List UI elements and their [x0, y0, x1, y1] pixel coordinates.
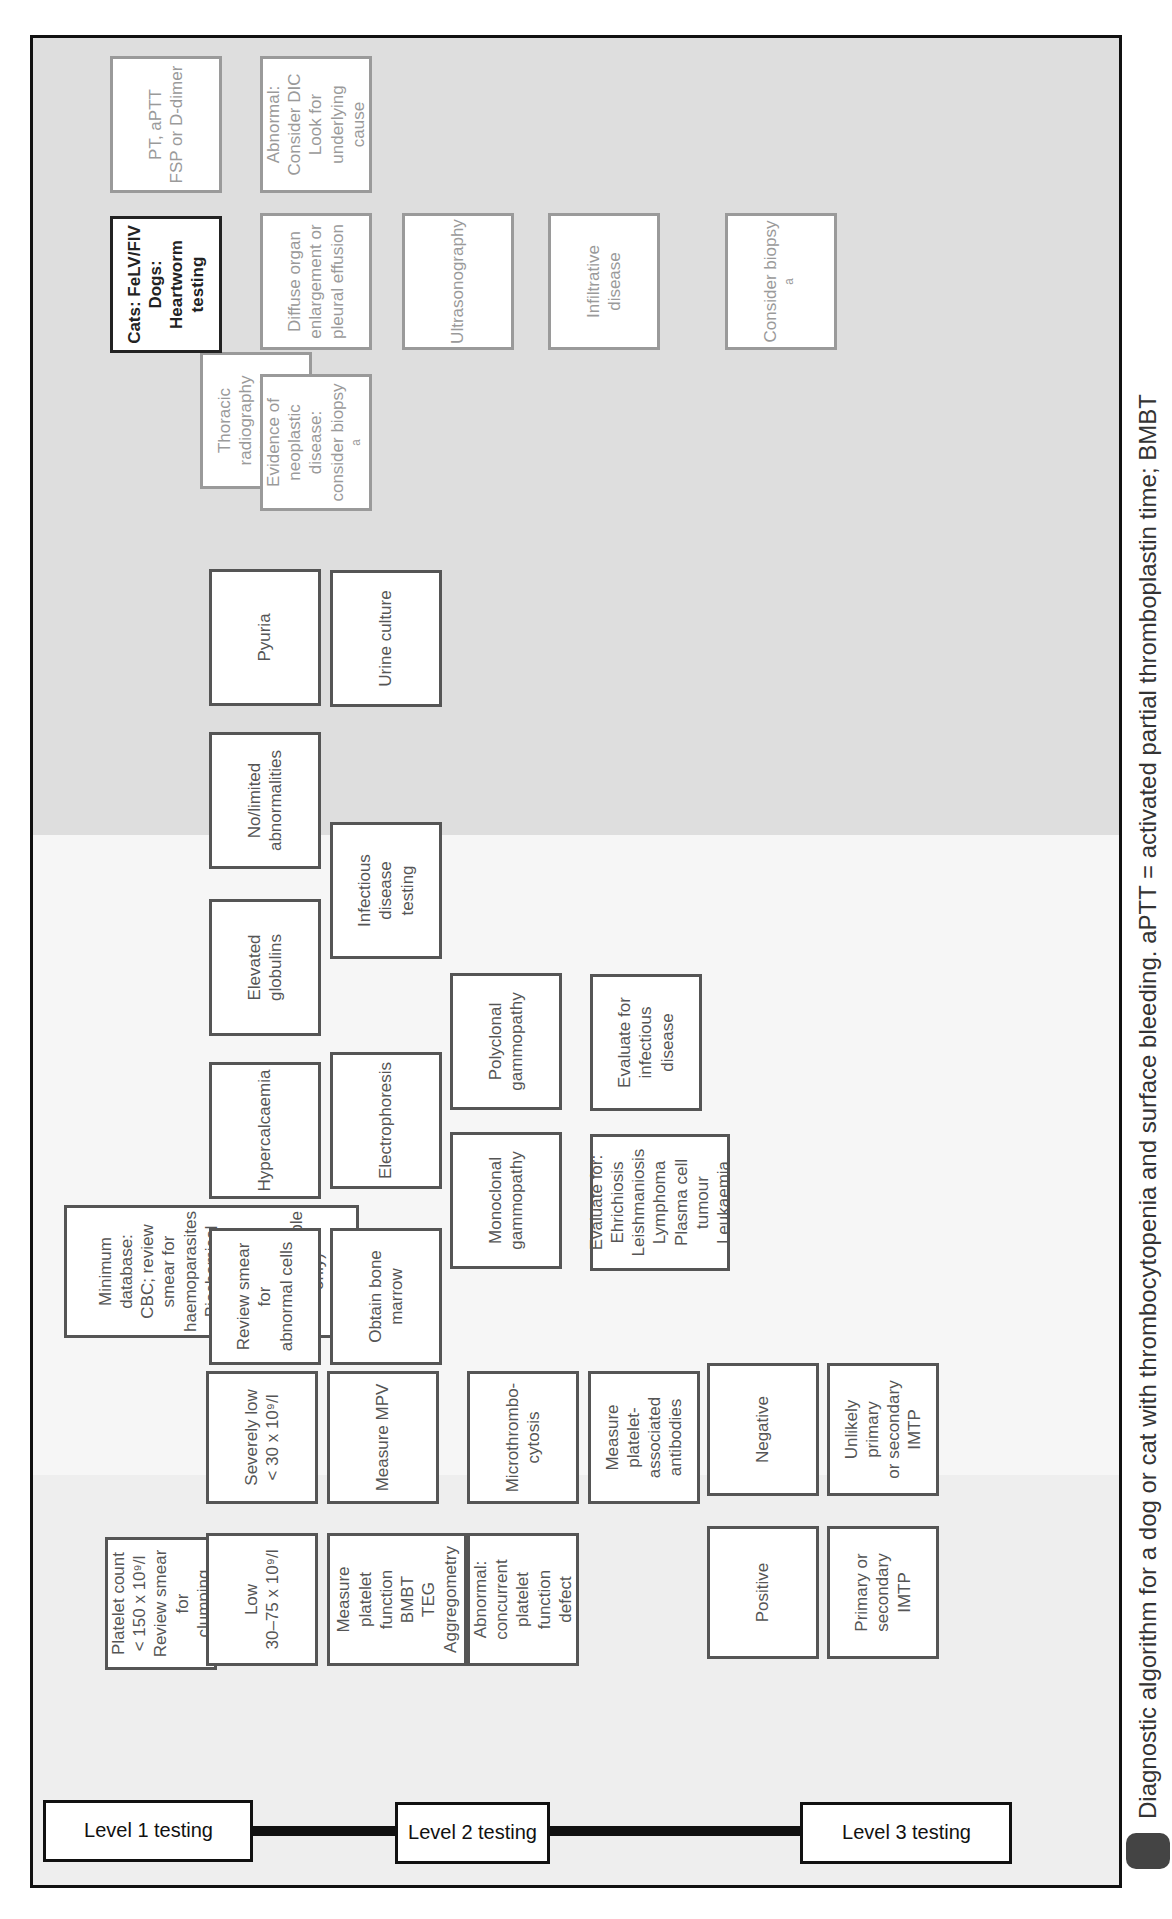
- obtain-bone-marrow-box: Obtain bone marrow: [330, 1228, 442, 1365]
- abnormal-platelet-function-box: Abnormal: concurrent platelet function d…: [467, 1533, 579, 1666]
- diffuse-organ-box: Diffuse organ enlargement or pleural eff…: [260, 213, 372, 350]
- pt-aptt-box: PT, aPTT FSP or D-dimer: [110, 56, 222, 193]
- evaluate-infectious-box: Evaluate for infectious disease: [590, 974, 702, 1111]
- felv-heartworm-box: Cats: FeLV/FIV Dogs: Heartworm testing: [110, 216, 222, 353]
- level-connector-2-3: [550, 1826, 800, 1836]
- review-smear-abnormal-cells-box: Review smear for abnormal cells: [209, 1228, 321, 1365]
- evaluate-for-list-box: Evaluate for: Ehrichiosis Leishmaniosis …: [590, 1134, 730, 1271]
- neoplastic-evidence-box: Evidence of neoplastic disease: consider…: [260, 374, 372, 511]
- infectious-disease-testing-box: Infectious disease testing: [330, 822, 442, 959]
- level-1-label: Level 1 testing: [43, 1800, 253, 1862]
- caption-marker: [1126, 1833, 1170, 1869]
- hypercalcaemia-box: Hypercalcaemia: [209, 1062, 321, 1199]
- microthrombocytosis-box: Microthrombo- cytosis: [467, 1371, 579, 1504]
- measure-antibodies-box: Measure platelet- associated antibodies: [588, 1371, 700, 1504]
- measure-platelet-function-box: Measure platelet function BMBT TEG Aggre…: [327, 1533, 467, 1666]
- electrophoresis-box: Electrophoresis: [330, 1052, 442, 1189]
- consider-biopsy-box: Consider biopsy ᵃ: [725, 213, 837, 350]
- measure-mpv-box: Measure MPV: [327, 1371, 439, 1504]
- unlikely-imtp-box: Unlikely primary or secondary IMTP: [827, 1363, 939, 1496]
- rotated-diagram-canvas: Level 1 testing Level 2 testing Level 3 …: [0, 0, 1172, 1919]
- positive-box: Positive: [707, 1526, 819, 1659]
- primary-secondary-imtp-box: Primary or secondary IMTP: [827, 1526, 939, 1659]
- abnormal-dic-box: Abnormal: Consider DIC Look for underlyi…: [260, 56, 372, 193]
- urine-culture-box: Urine culture: [330, 570, 442, 707]
- severely-low-box: Severely low < 30 x 10⁹/l: [206, 1371, 318, 1504]
- no-limited-abnormalities-box: No/limited abnormalities: [209, 732, 321, 869]
- level-connector-1-2: [253, 1826, 395, 1836]
- polyclonal-gammopathy-box: Polyclonal gammopathy: [450, 973, 562, 1110]
- level-2-label: Level 2 testing: [395, 1802, 550, 1864]
- elevated-globulins-box: Elevated globulins: [209, 899, 321, 1036]
- pyuria-box: Pyuria: [209, 569, 321, 706]
- figure-caption: Diagnostic algorithm for a dog or cat wi…: [1126, 394, 1170, 1869]
- infiltrative-disease-box: Infiltrative disease: [548, 213, 660, 350]
- negative-box: Negative: [707, 1363, 819, 1496]
- low-count-box: Low 30–75 x 10⁹/l: [206, 1533, 318, 1666]
- level-3-label: Level 3 testing: [800, 1802, 1012, 1864]
- platelet-count-box: Platelet count < 150 x 10⁹/l Review smea…: [105, 1537, 217, 1670]
- monoclonal-gammopathy-box: Monoclonal gammopathy: [450, 1132, 562, 1269]
- ultrasonography-box: Ultrasonography: [402, 213, 514, 350]
